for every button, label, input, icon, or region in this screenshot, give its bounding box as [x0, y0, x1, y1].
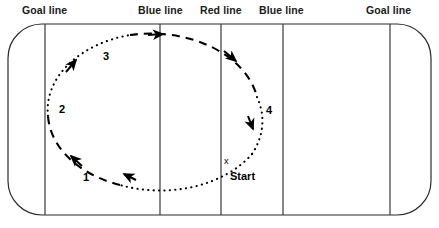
step-label-3: 3 [103, 51, 109, 62]
step-label-1: 1 [83, 172, 89, 183]
rink-boundary [8, 24, 431, 215]
rink-drill-diagram: Goal line Blue line Red line Blue line G… [0, 0, 439, 228]
arrow-top [148, 34, 163, 35]
step-label-2: 2 [59, 104, 65, 115]
step-label-4: 4 [266, 105, 272, 116]
start-label: Start [230, 171, 255, 182]
rink-canvas [0, 0, 439, 228]
start-x-icon: x [224, 157, 229, 166]
